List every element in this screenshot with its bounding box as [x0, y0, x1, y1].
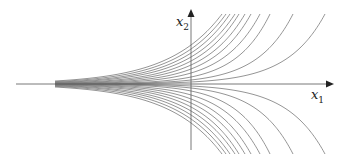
- x1-axis-arrow-icon: [326, 81, 334, 88]
- x2-axis-label: x2: [176, 15, 189, 32]
- trajectory-curve: [55, 86, 226, 154]
- trajectory-curve: [55, 84, 270, 154]
- trajectory-curve: [55, 14, 293, 84]
- trajectory-curve: [55, 14, 226, 82]
- trajectory-curve: [55, 84, 293, 154]
- trajectory-curve: [55, 85, 239, 154]
- trajectory-curve: [55, 14, 251, 84]
- x1-axis-label: x1: [311, 88, 324, 105]
- phase-portrait-plot: [0, 0, 348, 164]
- trajectory-curve: [55, 14, 270, 84]
- trajectory-curve: [55, 14, 239, 83]
- trajectory-curve: [55, 84, 251, 154]
